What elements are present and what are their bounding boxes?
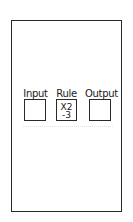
- output-label: Output: [85, 88, 116, 99]
- input-box[interactable]: [24, 99, 46, 121]
- rule-label: Rule: [53, 88, 80, 99]
- rule-step-2: -3: [57, 111, 76, 119]
- input-label: Input: [23, 88, 48, 99]
- faint-dotted-guide: [23, 126, 113, 128]
- rule-box: X2 -3: [56, 99, 77, 121]
- output-box[interactable]: [89, 99, 111, 121]
